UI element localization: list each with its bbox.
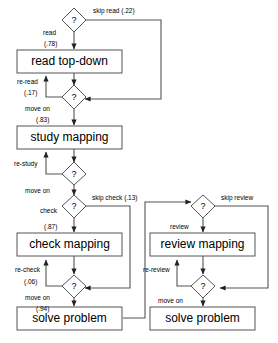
node-read-top-down-label: read top-down xyxy=(31,54,108,68)
node-study-mapping-label: study mapping xyxy=(30,130,108,144)
edge-label-read: read xyxy=(43,29,56,36)
node-decision-read-label: ? xyxy=(71,15,76,25)
node-solve-problem-right-label: solve problem xyxy=(165,311,240,325)
flowchart-diagram: read top-down study mapping check mappin… xyxy=(0,0,278,343)
node-decision-restudy-label: ? xyxy=(71,169,76,179)
node-decision-reread-label: ? xyxy=(71,92,76,102)
edge-label-move-on-4: move on xyxy=(158,297,183,304)
edge-label-re-check-prob: (.06) xyxy=(24,278,37,286)
edge-label-skip-check: skip check (.13) xyxy=(92,194,138,202)
edge-label-re-read-prob: (.17) xyxy=(24,89,37,97)
node-decision-check-label: ? xyxy=(71,201,76,211)
flowchart-canvas: read top-down study mapping check mappin… xyxy=(0,0,278,343)
edge-label-re-check: re-check xyxy=(15,266,41,273)
edge-label-re-review: re-review xyxy=(143,266,170,273)
edge-label-read-prob: (.78) xyxy=(44,40,57,48)
node-decision-review-label: ? xyxy=(200,201,205,211)
edge-re-study xyxy=(46,152,62,174)
edge-label-skip-review: skip review xyxy=(221,194,253,202)
node-decision-rereview-label: ? xyxy=(200,281,205,291)
edge-label-check-prob: (.87) xyxy=(44,223,57,231)
node-check-mapping-label: check mapping xyxy=(29,237,110,251)
edge-label-move-on-2: move on xyxy=(25,187,50,194)
node-review-mapping-label: review mapping xyxy=(160,237,244,251)
edge-label-review: review xyxy=(170,223,189,230)
edge-label-move-on-3: move on xyxy=(25,294,50,301)
edge-label-re-study: re-study xyxy=(14,160,38,168)
node-decision-recheck-label: ? xyxy=(71,281,76,291)
edge-label-move-on-1: move on xyxy=(25,105,50,112)
edge-label-re-read: re-read xyxy=(17,78,38,85)
edge-label-move-on-3-prob: (.94) xyxy=(36,305,49,313)
edge-label-move-on-1-prob: (.83) xyxy=(36,116,49,124)
edge-re-review xyxy=(177,260,191,286)
edge-re-check xyxy=(46,260,62,286)
edge-label-skip-read: skip read (.22) xyxy=(93,7,135,15)
edge-re-read xyxy=(46,76,62,97)
node-solve-problem-left-label: solve problem xyxy=(32,311,107,325)
edge-label-check: check xyxy=(40,207,58,214)
